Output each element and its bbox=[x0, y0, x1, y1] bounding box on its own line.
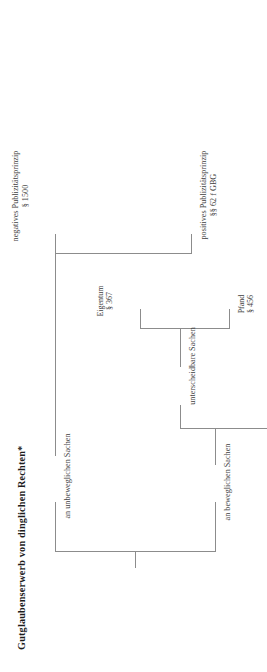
node-label: negatives Publizitätsprinzip bbox=[11, 116, 21, 276]
connector-beweglich-stem bbox=[215, 429, 216, 465]
node-pfand: Pfand § 456 bbox=[237, 273, 256, 335]
node-negatives-publizitaetsprinzip: negatives Publizitätsprinzip § 1500 bbox=[11, 116, 30, 276]
node-label: Eigentum bbox=[96, 266, 105, 336]
connector-to-beweglich bbox=[215, 502, 216, 552]
node-paragraph: § 1500 bbox=[21, 116, 31, 276]
connector-to-negativ bbox=[55, 234, 56, 254]
connector-root-stub bbox=[135, 551, 136, 568]
node-label: Pfand bbox=[237, 273, 246, 335]
chart-title: Gutglaubenserwerb von dinglichen Rechten… bbox=[16, 446, 27, 650]
connector-to-eigentum bbox=[140, 309, 141, 329]
node-label: unterscheidbare Sachen bbox=[188, 304, 198, 428]
connector-to-unterscheidbar bbox=[180, 405, 181, 429]
connector-unbeweglich-stem bbox=[55, 254, 56, 456]
node-paragraph: § 367 bbox=[105, 266, 114, 336]
connector-to-positiv bbox=[191, 234, 192, 254]
node-label: an unbeweglichen Sachen bbox=[63, 411, 73, 541]
node-an-beweglichen-sachen: an beweglichen Sachen bbox=[223, 422, 233, 542]
connector-unbeweglich-split bbox=[55, 253, 192, 254]
node-unterscheidbare-sachen: unterscheidbare Sachen bbox=[188, 304, 198, 428]
connector-unterscheidbar-split bbox=[140, 328, 230, 329]
node-an-unbeweglichen-sachen: an unbeweglichen Sachen bbox=[63, 411, 73, 541]
connector-to-unbeweglich bbox=[55, 502, 56, 552]
connector-unterscheidbar-stem bbox=[180, 329, 181, 367]
node-eigentum: Eigentum § 367 bbox=[96, 266, 115, 336]
node-label: positives Publizitätsprinzip bbox=[199, 116, 209, 274]
node-paragraph: § 456 bbox=[246, 273, 255, 335]
node-label: an beweglichen Sachen bbox=[223, 422, 233, 542]
node-positives-publizitaetsprinzip: positives Publizitätsprinzip §§ 62 f GBG bbox=[199, 116, 218, 274]
node-paragraph: §§ 62 f GBG bbox=[209, 116, 219, 274]
connector-to-pfand bbox=[229, 309, 230, 329]
tree-diagram: Gutglaubenserwerb von dinglichen Rechten… bbox=[0, 0, 267, 672]
